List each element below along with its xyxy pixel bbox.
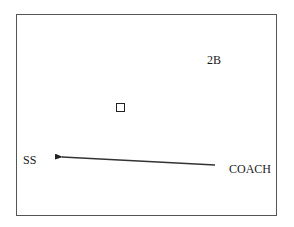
label-second-base: 2B [207, 54, 221, 66]
base-square-marker [116, 103, 125, 112]
label-coach: COACH [229, 163, 271, 175]
diagram-frame [16, 14, 277, 216]
label-shortstop: SS [23, 154, 36, 166]
